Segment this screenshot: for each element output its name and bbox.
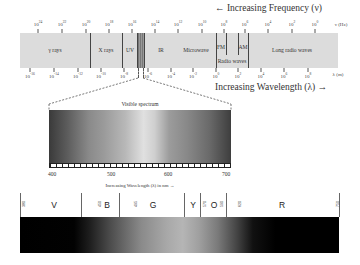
nm-boundary-label: 380 (22, 199, 26, 209)
nm-boundary-label: 750 (336, 199, 340, 209)
color-band-divider (184, 193, 185, 217)
nm-boundary-label: 450 (98, 199, 102, 209)
visible-spectrum-gradient (49, 110, 231, 163)
nm-boundary-label: 590 (220, 199, 224, 209)
nm-boundary-label: 570 (203, 199, 207, 209)
visible-tick-label: 400 (48, 171, 56, 177)
color-letter: G (150, 200, 157, 210)
visible-spectrum-title: Visible spectrum (121, 101, 158, 107)
visible-tick-label: 600 (164, 171, 172, 177)
nm-boundary-label: 495 (134, 199, 138, 209)
nm-boundary-label: 620 (238, 199, 242, 209)
zoom-guide-lines (0, 0, 360, 120)
color-band-divider (226, 193, 227, 217)
color-band-divider (119, 193, 120, 217)
visible-spectrum-caption: Increasing Wavelength (λ) in nm → (106, 183, 175, 188)
color-letter: Y (190, 200, 196, 210)
visible-spectrum-ruler (49, 163, 231, 168)
color-letter: V (51, 200, 57, 210)
color-band-divider (200, 193, 201, 217)
color-letter: O (211, 200, 218, 210)
color-band-gradient (20, 217, 339, 253)
color-letter: B (104, 200, 110, 210)
color-letter: R (279, 200, 285, 210)
color-band-labels: 380450495570590620750VBGYOR (20, 193, 340, 217)
visible-tick-label: 500 (107, 171, 115, 177)
visible-tick-label: 700 (222, 171, 230, 177)
color-band-divider (20, 193, 21, 217)
color-band-divider (81, 193, 82, 217)
